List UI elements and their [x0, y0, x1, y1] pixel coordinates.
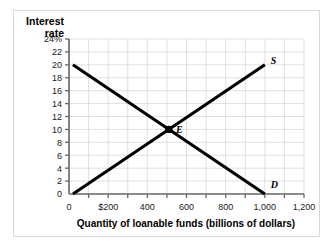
- y-tick-label: 4: [57, 164, 62, 174]
- y-tick-label: 18: [52, 73, 62, 83]
- y-tick-label: 10: [52, 125, 62, 135]
- x-axis-title: Quantity of loanable funds (billions of …: [77, 218, 295, 229]
- y-tick-label: 14: [52, 99, 62, 109]
- y-tick-label: 6: [57, 151, 62, 161]
- y-tick-label: 20: [52, 60, 62, 70]
- y-tick-label: 12: [52, 112, 62, 122]
- figure-container: 024681012141618202224% 0$2004006008001,0…: [0, 0, 335, 249]
- x-tick-label: 600: [179, 202, 194, 212]
- y-tick-label: 0: [57, 189, 62, 199]
- x-tick-label: 0: [66, 202, 71, 212]
- curve-labels: DS: [270, 55, 278, 190]
- y-tick-label: 22: [52, 47, 62, 57]
- x-tick-label: 800: [218, 202, 233, 212]
- y-tick-label: 16: [52, 86, 62, 96]
- loanable-funds-chart: 024681012141618202224% 0$2004006008001,0…: [14, 11, 319, 236]
- x-tick-label: $200: [98, 202, 118, 212]
- y-axis-title-line2: rate: [45, 27, 64, 39]
- x-tick-label: 1,200: [293, 202, 316, 212]
- x-tick-label: 1,000: [254, 202, 277, 212]
- y-tick-label: 2: [57, 176, 62, 186]
- x-axis-tick-labels: 0$2004006008001,0001,200: [66, 202, 315, 212]
- x-tick-label: 400: [140, 202, 155, 212]
- figure-frame: 024681012141618202224% 0$2004006008001,0…: [13, 10, 320, 237]
- y-axis-title-line1: Interest: [26, 15, 64, 27]
- y-tick-label: 8: [57, 138, 62, 148]
- equilibrium-marker: [165, 126, 172, 133]
- y-axis-tick-labels: 024681012141618202224%: [44, 34, 62, 199]
- equilibrium-label: E: [175, 124, 183, 135]
- curve-label-s: S: [271, 55, 277, 66]
- curve-label-d: D: [270, 179, 278, 190]
